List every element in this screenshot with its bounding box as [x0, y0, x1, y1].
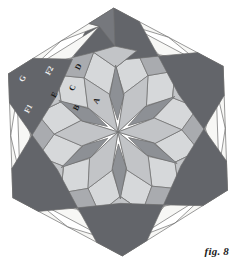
figure-page: ABCDEF1F2G fig. 8 — [0, 0, 237, 271]
figure-caption: fig. 8 — [205, 245, 229, 257]
tiles-group — [9, 8, 228, 256]
tile-corner-hexagon — [78, 203, 164, 256]
hexagon-tiling-figure: ABCDEF1F2G — [0, 0, 237, 271]
